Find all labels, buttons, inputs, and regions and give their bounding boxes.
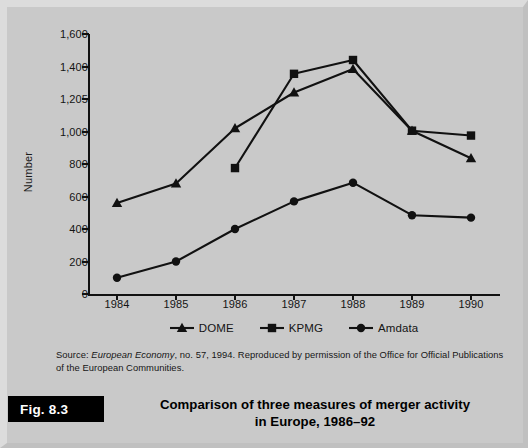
y-axis-tick — [82, 98, 89, 100]
legend-marker-square-icon — [260, 322, 284, 334]
y-axis-tick-label: 200 — [36, 257, 88, 267]
figure-panel: Number 02004006008001,0001,2051,4001,600… — [0, 0, 528, 448]
y-axis-tick — [82, 66, 89, 68]
data-point-marker — [467, 131, 475, 139]
legend-item-dome[interactable]: DOME — [170, 322, 234, 334]
legend-marker-glyph — [268, 324, 276, 332]
x-axis-tick-label: 1990 — [441, 298, 501, 310]
series-kpmg — [231, 56, 475, 172]
source-note: Source: European Economy, no. 57, 1994. … — [56, 349, 508, 374]
caption-line-1: Comparison of three measures of merger a… — [116, 396, 514, 413]
y-axis-tick — [82, 293, 89, 295]
legend-item-kpmg[interactable]: KPMG — [260, 322, 323, 334]
y-axis-tick — [82, 261, 89, 263]
data-point-marker — [290, 70, 298, 78]
legend-marker-circle-icon — [349, 322, 373, 334]
chart-plot: Number 02004006008001,0001,2051,4001,600… — [0, 0, 528, 340]
series-plot-area — [88, 34, 500, 296]
x-axis-tick-label: 1988 — [323, 298, 383, 310]
data-point-marker — [349, 178, 357, 186]
chart-axes — [88, 34, 500, 296]
y-axis-tick-label: 1,400 — [36, 62, 88, 72]
figure-caption-title: Comparison of three measures of merger a… — [116, 396, 514, 430]
data-point-marker — [230, 123, 240, 132]
legend-marker-glyph — [357, 324, 365, 332]
data-point-marker — [408, 126, 416, 134]
legend-label: Amdata — [378, 322, 418, 334]
series-svg — [88, 34, 500, 296]
data-point-marker — [231, 164, 239, 172]
figure-number-badge: Fig. 8.3 — [8, 396, 104, 422]
legend-item-amdata[interactable]: Amdata — [349, 322, 418, 334]
x-axis-tick-label: 1984 — [87, 298, 147, 310]
series-dome — [112, 64, 476, 207]
y-axis-tick-label: 0 — [36, 289, 88, 299]
y-axis-tick-label: 800 — [36, 159, 88, 169]
y-axis-tick — [82, 131, 89, 133]
y-axis-tick — [82, 196, 89, 198]
data-point-marker — [113, 274, 121, 282]
data-point-marker — [349, 56, 357, 64]
legend-label: KPMG — [289, 322, 323, 334]
data-point-marker — [467, 213, 475, 221]
x-axis-tick-label: 1985 — [146, 298, 206, 310]
x-axis-tick-label: 1989 — [382, 298, 442, 310]
data-point-marker — [290, 197, 298, 205]
source-publication-title: European Economy — [91, 349, 174, 360]
series-line — [235, 60, 471, 168]
y-axis-tick-label: 600 — [36, 192, 88, 202]
series-line — [117, 183, 471, 278]
caption-line-2: in Europe, 1986–92 — [116, 413, 514, 430]
data-point-marker — [408, 211, 416, 219]
x-axis-tick-label: 1987 — [264, 298, 324, 310]
x-axis-tick-label: 1986 — [205, 298, 265, 310]
y-axis-tick-label: 1,600 — [36, 29, 88, 39]
y-axis-tick-labels: 02004006008001,0001,2051,4001,600 — [36, 34, 88, 296]
y-axis-tick — [82, 163, 89, 165]
legend-label: DOME — [199, 322, 234, 334]
chart-legend: DOMEKPMGAmdata — [88, 318, 500, 338]
y-axis-tick-label: 400 — [36, 224, 88, 234]
figure-caption-bar: Fig. 8.3 Comparison of three measures of… — [0, 396, 528, 440]
data-point-marker — [231, 225, 239, 233]
y-axis-tick-label: 1,000 — [36, 127, 88, 137]
series-amdata — [113, 178, 475, 281]
legend-marker-triangle-icon — [170, 322, 194, 334]
data-point-marker — [172, 257, 180, 265]
source-prefix: Source: — [56, 349, 91, 360]
y-axis-tick-label: 1,205 — [36, 94, 88, 104]
y-axis-tick — [82, 33, 89, 35]
x-axis-tick-labels: 1984198519861987198819891990 — [88, 298, 500, 314]
y-axis-tick — [82, 228, 89, 230]
